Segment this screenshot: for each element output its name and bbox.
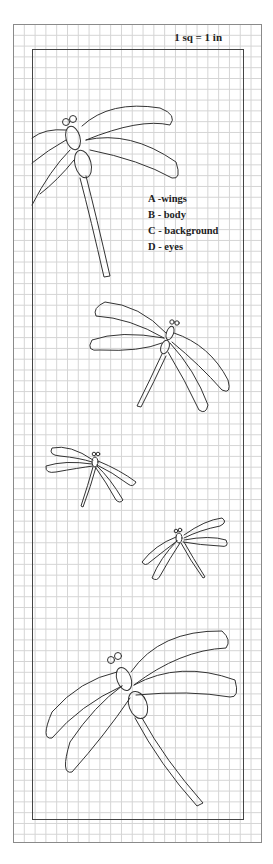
dragonfly-medium — [90, 302, 229, 412]
dragonfly-drawings — [0, 0, 273, 864]
legend: A -wings B - body C - background D - eye… — [148, 191, 218, 255]
legend-item-eyes: D - eyes — [148, 239, 218, 255]
legend-item-background: C - background — [148, 223, 218, 239]
legend-item-wings: A -wings — [148, 191, 218, 207]
dragonfly-large-bottom — [46, 631, 237, 806]
dragonfly-small-left — [46, 447, 136, 507]
legend-item-body: B - body — [148, 207, 218, 223]
dragonfly-small-right — [142, 518, 227, 580]
